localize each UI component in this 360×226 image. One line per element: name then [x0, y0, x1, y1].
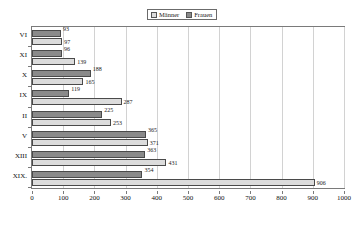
- y-axis-tick-label: IX: [20, 91, 27, 99]
- bar-frauen: [32, 131, 146, 138]
- bar-value-label-frauen: 354: [144, 167, 153, 174]
- y-axis-tick-label: XIX.: [13, 172, 27, 180]
- bar-frauen: [32, 90, 69, 97]
- bar-maenner: [32, 119, 111, 126]
- y-axis-tick-label: X: [22, 71, 27, 79]
- y-axis-tick-mark: [28, 167, 31, 168]
- x-axis-tick-mark: [32, 191, 33, 194]
- x-axis-tick-label: 700: [245, 194, 256, 202]
- gridline: [219, 27, 220, 188]
- bar-frauen: [32, 111, 102, 118]
- bar-value-label-frauen: 363: [147, 147, 156, 154]
- gridline: [188, 27, 189, 188]
- bar-maenner: [32, 179, 315, 186]
- y-axis-tick-label: V: [22, 132, 27, 140]
- bar-frauen: [32, 70, 91, 77]
- y-axis: VIXIXIXIIVXIIIXIX.: [0, 26, 27, 189]
- bar-value-label-frauen: 119: [71, 86, 80, 93]
- x-axis-tick-label: 400: [152, 194, 163, 202]
- plot-inner: 9397961391881651192872252533653713634313…: [32, 27, 344, 188]
- gridline: [250, 27, 251, 188]
- bar-value-label-maenner: 371: [150, 140, 159, 147]
- y-axis-tick-label: XIII: [15, 152, 27, 160]
- x-axis-tick-mark: [250, 191, 251, 194]
- y-axis-tick-mark: [28, 147, 31, 148]
- x-axis-tick-mark: [157, 191, 158, 194]
- bar-value-label-maenner: 906: [317, 180, 326, 187]
- y-axis-tick-mark: [28, 86, 31, 87]
- bar-frauen: [32, 171, 142, 178]
- y-axis-tick-mark: [28, 127, 31, 128]
- bar-maenner: [32, 58, 75, 65]
- x-axis-tick-mark: [63, 191, 64, 194]
- bar-value-label-maenner: 97: [64, 39, 70, 46]
- bar-frauen: [32, 151, 145, 158]
- x-axis-tick-mark: [94, 191, 95, 194]
- chart-legend: Männer Frauen: [147, 9, 217, 20]
- x-axis-tick-label: 300: [120, 194, 131, 202]
- x-axis-tick-mark: [188, 191, 189, 194]
- x-axis-tick-label: 100: [58, 194, 69, 202]
- bar-value-label-maenner: 253: [113, 120, 122, 127]
- x-axis-tick-mark: [282, 191, 283, 194]
- y-axis-tick-label: XI: [20, 51, 27, 59]
- gridline: [313, 27, 314, 188]
- bar-value-label-maenner: 287: [124, 99, 133, 106]
- y-axis-tick-mark: [28, 187, 31, 188]
- x-axis-tick-label: 600: [214, 194, 225, 202]
- plot-area: 9397961391881651192872252533653713634313…: [31, 26, 345, 189]
- bar-maenner: [32, 98, 122, 105]
- y-axis-tick-mark: [28, 46, 31, 47]
- x-axis-tick-label: 900: [308, 194, 319, 202]
- bar-frauen: [32, 30, 61, 37]
- bar-frauen: [32, 50, 62, 57]
- bar-value-label-frauen: 96: [64, 46, 70, 53]
- y-axis-tick-label: II: [22, 112, 27, 120]
- gridline: [282, 27, 283, 188]
- bar-value-label-maenner: 431: [168, 160, 177, 167]
- x-axis: 01002003004005006007008009001000: [31, 191, 345, 205]
- legend-swatch-maenner: [151, 12, 157, 18]
- bar-maenner: [32, 139, 148, 146]
- bar-value-label-frauen: 225: [104, 107, 113, 114]
- x-axis-tick-label: 200: [89, 194, 100, 202]
- bar-maenner: [32, 78, 83, 85]
- bar-maenner: [32, 38, 62, 45]
- x-axis-tick-label: 0: [30, 194, 34, 202]
- x-axis-tick-mark: [219, 191, 220, 194]
- bar-maenner: [32, 159, 166, 166]
- y-axis-tick-mark: [28, 107, 31, 108]
- x-axis-tick-mark: [126, 191, 127, 194]
- x-axis-tick-label: 800: [276, 194, 287, 202]
- bar-chart: Männer Frauen 93979613918816511928722525…: [0, 0, 360, 226]
- bar-value-label-frauen: 93: [63, 26, 69, 33]
- legend-entry-maenner: Männer: [151, 11, 179, 18]
- gridline: [344, 27, 345, 188]
- legend-swatch-frauen: [186, 12, 192, 18]
- bar-value-label-maenner: 139: [77, 59, 86, 66]
- bar-value-label-frauen: 188: [93, 66, 102, 73]
- y-axis-tick-label: VI: [20, 31, 27, 39]
- x-axis-tick-mark: [313, 191, 314, 194]
- bar-value-label-frauen: 365: [148, 127, 157, 134]
- legend-label-maenner: Männer: [159, 11, 179, 18]
- bar-value-label-maenner: 165: [85, 79, 94, 86]
- legend-label-frauen: Frauen: [194, 11, 212, 18]
- x-axis-tick-label: 1000: [337, 194, 351, 202]
- x-axis-tick-label: 500: [183, 194, 194, 202]
- x-axis-tick-mark: [344, 191, 345, 194]
- legend-entry-frauen: Frauen: [186, 11, 212, 18]
- y-axis-tick-mark: [28, 66, 31, 67]
